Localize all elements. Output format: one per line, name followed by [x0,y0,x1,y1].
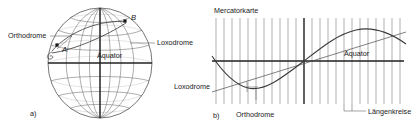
chart-equator-label: Äquator [344,49,370,58]
globe-equator-label: Äquator [97,51,123,60]
chart-meridians-label: Längenkreise [368,107,411,116]
chart-loxodrome-label: Loxodrome [174,82,210,91]
globe-loxodrome-label: Loxodrome [157,38,193,47]
chart-title: Mercatorkarte [214,6,258,15]
globe-point-a-marker [55,43,58,46]
panel-b-mercator: Mercatorkarte Äquator Loxodrome Orthodro… [174,6,411,120]
panel-a-caption: a) [30,109,36,118]
chart-meridian-bracket [344,104,366,111]
panel-a-globe: Orthodrome Loxodrome Äquator A B a) [8,8,193,118]
figure-container: Orthodrome Loxodrome Äquator A B a) [0,0,412,128]
globe-point-a-label: A [61,45,67,54]
globe-orthodrome-label: Orthodrome [8,31,46,40]
chart-orthodrome-label: Orthodrome [236,110,274,119]
globe-point-b-marker [123,19,126,22]
panel-b-caption: b) [213,111,219,120]
chart-loxodrome-line [212,32,406,92]
figure-svg: Orthodrome Loxodrome Äquator A B a) [0,0,412,128]
globe-point-b-label: B [131,13,136,22]
chart-orthodrome-curve [212,29,406,89]
